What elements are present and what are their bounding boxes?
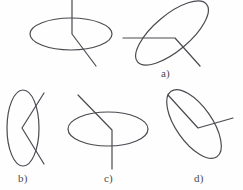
reference-figure-group xyxy=(30,0,112,66)
option-d-group[interactable] xyxy=(156,81,233,167)
figure-canvas xyxy=(0,0,243,190)
option-b-bent-line xyxy=(22,93,44,164)
reference-bent-line xyxy=(72,0,96,66)
option-b-group[interactable] xyxy=(7,90,44,166)
option-d-bent-line xyxy=(168,95,233,128)
option-c-label: c) xyxy=(104,173,113,184)
reference-ellipse xyxy=(30,18,112,50)
option-c-bent-line xyxy=(78,95,112,169)
option-a-label: a) xyxy=(161,68,170,79)
option-c-ellipse xyxy=(68,112,148,146)
figure-panel: a) b) c) d) xyxy=(0,0,243,190)
option-c-group[interactable] xyxy=(68,95,148,169)
option-b-ellipse xyxy=(7,90,39,166)
option-a-group[interactable] xyxy=(123,0,218,76)
option-b-label: b) xyxy=(18,173,28,184)
option-d-label: d) xyxy=(194,173,204,184)
